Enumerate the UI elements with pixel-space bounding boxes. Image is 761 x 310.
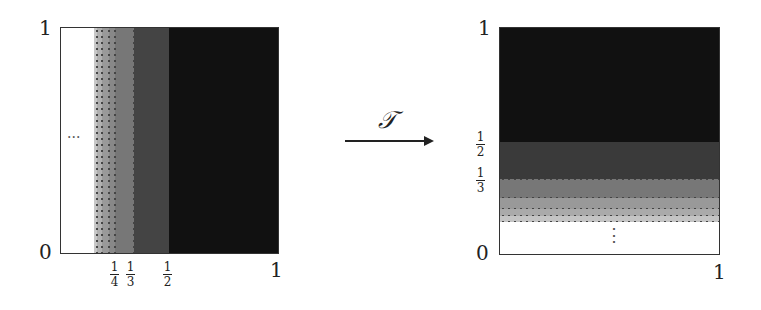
right-y-bottom-label: 0 — [476, 243, 489, 263]
fraction-denominator: 3 — [477, 182, 485, 194]
fraction-third: 13 — [126, 261, 135, 288]
ellipsis-vertical: ⋮ — [605, 226, 623, 244]
fraction-third: 13 — [476, 167, 485, 194]
right-x-right-label: 1 — [713, 262, 726, 282]
fraction-half: 12 — [163, 261, 172, 288]
fraction-denominator: 2 — [477, 146, 485, 158]
band-third-half — [134, 28, 169, 253]
fraction-numerator: 1 — [477, 167, 485, 179]
dotted-boundary — [113, 28, 117, 253]
dotted-boundary — [500, 178, 719, 181]
map-arrow-shaft — [345, 140, 425, 142]
fraction-denominator: 3 — [127, 276, 135, 288]
fraction-numerator: 1 — [164, 261, 172, 273]
fraction-numerator: 1 — [127, 261, 135, 273]
fraction-quarter: 14 — [110, 261, 119, 288]
left-y-bottom-label: 0 — [39, 242, 52, 262]
left-square: ··· — [60, 27, 279, 254]
dotted-boundary — [500, 214, 719, 217]
fraction-numerator: 1 — [111, 261, 119, 273]
band-half-one — [500, 28, 719, 142]
fraction-half: 12 — [476, 131, 485, 158]
band-half-one — [169, 28, 279, 253]
dotted-boundary — [132, 28, 136, 253]
ellipsis-horizontal: ··· — [67, 130, 80, 144]
dotted-boundary — [100, 28, 104, 253]
dotted-boundary — [95, 28, 99, 253]
left-y-top-label: 1 — [39, 18, 52, 38]
dotted-boundary — [500, 220, 719, 223]
right-square: ⋮ — [499, 27, 720, 255]
arrow-right-icon — [424, 136, 434, 146]
dotted-boundary — [500, 207, 719, 210]
fraction-denominator: 4 — [111, 276, 119, 288]
map-symbol: 𝒯 — [378, 108, 396, 132]
fraction-numerator: 1 — [477, 131, 485, 143]
dotted-boundary — [500, 196, 719, 199]
left-x-right-label: 1 — [270, 260, 283, 280]
dotted-boundary — [107, 28, 111, 253]
right-y-top-label: 1 — [478, 18, 491, 38]
fraction-denominator: 2 — [164, 276, 172, 288]
band-third-half — [500, 142, 719, 179]
